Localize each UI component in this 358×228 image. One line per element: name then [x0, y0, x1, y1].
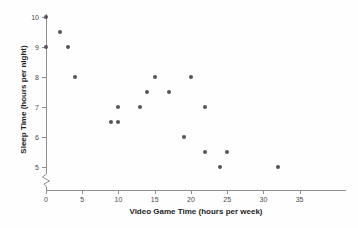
y-tick: [42, 77, 46, 78]
y-tick-label: 8: [35, 74, 39, 81]
data-point: [276, 165, 280, 169]
x-tick-label: 15: [151, 196, 159, 203]
x-tick: [227, 190, 228, 194]
data-point: [138, 105, 142, 109]
data-point: [203, 150, 207, 154]
data-point: [116, 120, 120, 124]
x-tick-label: 5: [80, 196, 84, 203]
x-tick: [118, 190, 119, 194]
data-point: [44, 15, 48, 19]
y-tick-label: 10: [31, 14, 39, 21]
y-tick-label: 7: [35, 104, 39, 111]
data-point: [203, 105, 207, 109]
x-tick-label: 0: [44, 196, 48, 203]
data-point: [167, 90, 171, 94]
y-tick: [42, 107, 46, 108]
x-tick-label: 10: [115, 196, 123, 203]
y-tick: [42, 167, 46, 168]
data-point: [182, 135, 186, 139]
data-point: [153, 75, 157, 79]
x-tick: [46, 190, 47, 194]
x-tick: [82, 190, 83, 194]
data-point: [66, 45, 70, 49]
data-point: [58, 30, 62, 34]
x-tick-label: 20: [187, 196, 195, 203]
x-tick: [191, 190, 192, 194]
data-point: [218, 165, 222, 169]
x-tick: [300, 190, 301, 194]
x-tick: [263, 190, 264, 194]
x-axis-title: Video Game Time (hours per week): [46, 207, 346, 216]
y-axis-title: Sleep Time (hours per night): [19, 15, 28, 185]
y-tick-label: 9: [35, 44, 39, 51]
data-point: [73, 75, 77, 79]
x-tick-label: 30: [259, 196, 267, 203]
data-point: [225, 150, 229, 154]
data-point: [116, 105, 120, 109]
y-axis-line: [46, 14, 47, 174]
data-point: [109, 120, 113, 124]
scatter-plot: 05101520253035 5678910 Video Game Time (…: [0, 0, 358, 228]
x-axis-line: [46, 190, 346, 191]
y-tick-label: 5: [35, 164, 39, 171]
y-tick: [42, 137, 46, 138]
x-tick: [155, 190, 156, 194]
x-tick-label: 35: [296, 196, 304, 203]
axis-break-icon: [40, 168, 53, 190]
data-point: [44, 45, 48, 49]
x-tick-label: 25: [223, 196, 231, 203]
y-tick-label: 6: [35, 134, 39, 141]
data-point: [145, 90, 149, 94]
data-point: [189, 75, 193, 79]
